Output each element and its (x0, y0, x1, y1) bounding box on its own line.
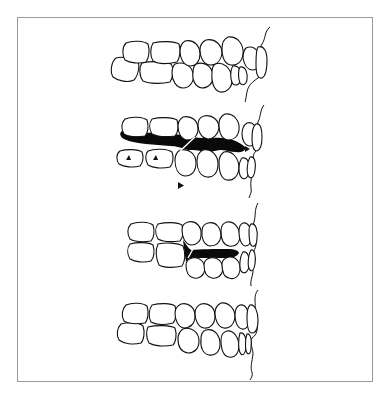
panel-2 (117, 105, 264, 198)
panel-1 (111, 27, 270, 102)
dental-arches-diagram (0, 0, 390, 394)
panel-4 (117, 290, 258, 380)
arrowhead-3 (178, 182, 184, 189)
panel-3 (128, 203, 258, 286)
arrowhead-4 (245, 146, 250, 152)
lip-line (250, 290, 258, 380)
